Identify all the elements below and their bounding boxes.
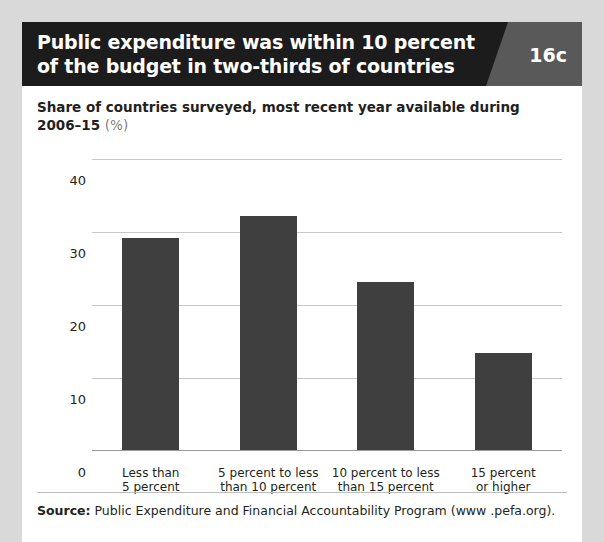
bar — [122, 238, 179, 450]
y-axis-tick-label: 30 — [30, 246, 86, 261]
source-label: Source: — [37, 503, 91, 518]
bar — [240, 216, 297, 450]
figure-number-badge: 16c — [529, 44, 567, 66]
chart-subtitle-unit: (%) — [105, 117, 128, 133]
x-axis-tick-label: Less than5 percent — [92, 466, 210, 494]
y-axis: 010203040 — [22, 159, 86, 451]
x-axis-labels: Less than5 percent5 percent to lessthan … — [92, 460, 562, 500]
source-note: Source: Public Expenditure and Financial… — [37, 503, 567, 519]
x-axis-tick-label: 10 percent to lessthan 15 percent — [327, 466, 445, 494]
chart-plot: 010203040 Less than5 percent5 percent to… — [22, 138, 582, 488]
x-axis-tick-label: 15 percentor higher — [445, 466, 563, 494]
bar-series — [92, 159, 562, 451]
y-axis-tick-label: 0 — [30, 465, 86, 480]
y-axis-tick-label: 20 — [30, 319, 86, 334]
x-axis-tick-label: 5 percent to lessthan 10 percent — [210, 466, 328, 494]
source-text: Public Expenditure and Financial Account… — [91, 503, 556, 518]
page-background: Public expenditure was within 10 percent… — [0, 0, 604, 542]
plot-area — [92, 159, 562, 451]
chart-subtitle: Share of countries surveyed, most recent… — [37, 98, 567, 134]
figure-header: Public expenditure was within 10 percent… — [22, 22, 582, 86]
y-axis-tick-label: 40 — [30, 173, 86, 188]
page-title: Public expenditure was within 10 percent… — [37, 30, 497, 78]
bar — [475, 353, 532, 450]
figure-card: Public expenditure was within 10 percent… — [22, 22, 582, 542]
bar — [357, 282, 414, 450]
y-axis-tick-label: 10 — [30, 392, 86, 407]
source-divider — [37, 492, 567, 493]
